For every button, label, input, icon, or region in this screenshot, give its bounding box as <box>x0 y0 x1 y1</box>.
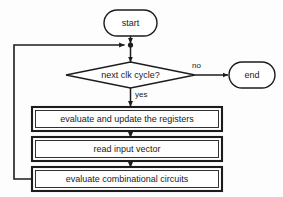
start-label: start <box>122 18 140 28</box>
flowchart-diagram: start next clk cycle? no end yes evaluat… <box>0 0 283 197</box>
node-start[interactable]: start <box>104 10 157 36</box>
junction-dot <box>128 42 133 47</box>
node-end[interactable]: end <box>229 62 275 88</box>
edge-label-yes: yes <box>135 90 147 99</box>
decision-label: next clk cycle? <box>101 70 160 80</box>
end-label: end <box>244 70 259 80</box>
edge-label-no: no <box>192 61 201 70</box>
node-process-1[interactable]: evaluate and update the registers <box>32 107 222 131</box>
node-process-3[interactable]: evaluate combinational circuits <box>32 167 222 191</box>
flowchart-canvas: start next clk cycle? no end yes evaluat… <box>0 0 283 197</box>
node-process-2[interactable]: read input vector <box>32 137 222 161</box>
process-1-label: evaluate and update the registers <box>60 114 194 124</box>
node-decision[interactable]: next clk cycle? <box>66 62 195 88</box>
process-2-label: read input vector <box>93 144 160 154</box>
process-3-label: evaluate combinational circuits <box>66 174 189 184</box>
